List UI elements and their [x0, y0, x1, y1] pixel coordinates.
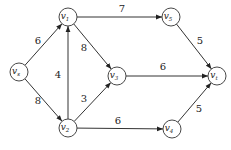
edge-v4-vt	[178, 83, 211, 122]
edge-v5-vt	[177, 24, 212, 69]
flow-network-diagram: 6848376655 vsv1v2v3v4v5vt	[0, 0, 231, 150]
edge-vs-v2	[25, 79, 62, 121]
edges: 6848376655	[25, 3, 212, 129]
edge-weight: 5	[197, 35, 203, 46]
node-v2: v2	[59, 119, 77, 137]
node-v1: v1	[59, 8, 77, 26]
edge-v1-v3	[74, 24, 111, 69]
edge-weight: 8	[81, 42, 87, 53]
edge-weight: 5	[196, 103, 202, 114]
edge-weight: 8	[35, 95, 41, 106]
node-vs: vs	[10, 63, 28, 81]
edge-weight: 3	[81, 93, 87, 104]
edge-weight: 4	[55, 69, 61, 80]
edge-v2-v3	[74, 83, 111, 122]
edge-weight: 6	[160, 61, 166, 72]
node-v4: v4	[163, 120, 181, 138]
edge-v2-v4	[77, 128, 163, 129]
edge-weight: 7	[119, 3, 125, 14]
edge-weight: 6	[35, 35, 41, 46]
node-v3: v3	[108, 67, 126, 85]
node-v5: v5	[162, 8, 180, 26]
edge-weight: 6	[115, 115, 121, 126]
edge-vs-v1	[25, 24, 62, 66]
node-vt: vt	[208, 67, 226, 85]
